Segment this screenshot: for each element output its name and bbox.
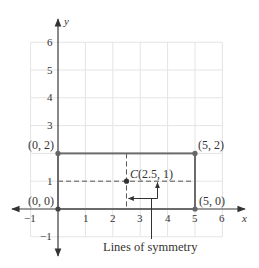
coordinate-diagram: x y −1 1 2 3 4 5 6 −1 1 3 4 5 6 (0, 2) (…: [0, 0, 259, 268]
label-0-2: (0, 2): [28, 138, 54, 152]
y-tick: 4: [47, 91, 53, 103]
vertex-5-2: [192, 151, 197, 156]
x-tick: 5: [192, 212, 198, 224]
x-tick: 1: [83, 212, 89, 224]
x-axis-label: x: [241, 212, 247, 224]
x-tick: 3: [137, 212, 143, 224]
label-5-0: (5, 0): [199, 194, 225, 208]
x-tick: 2: [110, 212, 116, 224]
center-label: C(2.5, 1): [130, 167, 173, 181]
lines-of-symmetry-caption: Lines of symmetry: [103, 240, 198, 254]
label-0-0: (0, 0): [28, 194, 54, 208]
y-tick: 1: [47, 175, 53, 187]
x-tick: −1: [24, 212, 36, 224]
x-tick: 4: [165, 212, 171, 224]
vertex-0-2: [55, 151, 60, 156]
y-axis-label: y: [63, 15, 69, 27]
vertex-5-0: [192, 206, 197, 211]
symmetry-leader: [129, 183, 158, 240]
y-tick: 6: [47, 36, 53, 48]
center-label-coords: (2.5, 1): [138, 167, 173, 181]
y-tick: 5: [47, 64, 53, 76]
y-tick: −1: [40, 230, 52, 242]
x-tick-labels: −1 1 2 3 4 5 6: [24, 212, 225, 224]
x-tick: 6: [219, 212, 225, 224]
vertex-0-0: [55, 206, 60, 211]
label-5-2: (5, 2): [198, 138, 224, 152]
y-tick: 3: [47, 119, 53, 131]
center-point: [124, 179, 129, 184]
